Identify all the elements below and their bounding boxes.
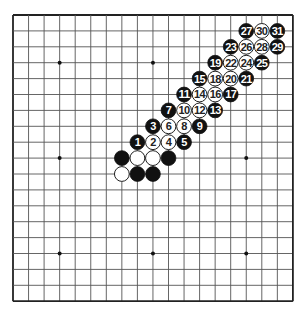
black-stone-move-11: 11 xyxy=(177,87,192,102)
black-stone-move-17: 17 xyxy=(223,87,238,102)
black-stone-move-5: 5 xyxy=(177,135,192,150)
white-stone-move-26: 26 xyxy=(239,39,254,54)
move-number-label: 2 xyxy=(150,136,156,148)
white-stone-move-16: 16 xyxy=(208,87,223,102)
move-number-label: 10 xyxy=(179,104,191,116)
move-number-label: 26 xyxy=(241,41,253,53)
move-number-label: 30 xyxy=(256,25,268,37)
black-stone-move-13: 13 xyxy=(208,103,223,118)
white-stone xyxy=(114,167,129,182)
star-point xyxy=(58,252,62,256)
move-number-label: 21 xyxy=(241,73,253,85)
star-point xyxy=(58,156,62,160)
move-number-label: 24 xyxy=(241,57,253,69)
move-number-label: 22 xyxy=(225,57,237,69)
star-point xyxy=(244,252,248,256)
stone-disc xyxy=(114,151,129,166)
go-board: 1234567891011121314151617181920212223242… xyxy=(0,0,302,314)
stone-disc xyxy=(130,151,145,166)
move-number-label: 19 xyxy=(210,57,222,69)
move-number-label: 6 xyxy=(166,120,172,132)
white-stone-move-30: 30 xyxy=(254,24,269,39)
black-stone-move-23: 23 xyxy=(223,39,238,54)
white-stone-move-2: 2 xyxy=(146,135,161,150)
black-stone-move-21: 21 xyxy=(239,71,254,86)
white-stone-move-24: 24 xyxy=(239,55,254,70)
stone-disc xyxy=(146,151,161,166)
stone-disc xyxy=(114,167,129,182)
star-point xyxy=(244,156,248,160)
move-number-label: 29 xyxy=(272,41,284,53)
go-board-diagram: 1234567891011121314151617181920212223242… xyxy=(0,0,302,314)
move-number-label: 28 xyxy=(256,41,268,53)
black-stone-move-29: 29 xyxy=(270,39,285,54)
move-number-label: 5 xyxy=(181,136,187,148)
move-number-label: 16 xyxy=(210,88,222,100)
stone-disc xyxy=(130,167,145,182)
white-stone xyxy=(130,151,145,166)
white-stone-move-10: 10 xyxy=(177,103,192,118)
move-number-label: 12 xyxy=(194,104,206,116)
move-number-label: 9 xyxy=(197,120,203,132)
black-stone-move-1: 1 xyxy=(130,135,145,150)
black-stone-move-9: 9 xyxy=(192,119,207,134)
move-number-label: 23 xyxy=(225,41,237,53)
star-point xyxy=(151,61,155,65)
white-stone-move-14: 14 xyxy=(192,87,207,102)
black-stone xyxy=(130,167,145,182)
black-stone-move-7: 7 xyxy=(161,103,176,118)
white-stone xyxy=(146,151,161,166)
white-stone-move-18: 18 xyxy=(208,71,223,86)
stone-disc xyxy=(146,167,161,182)
black-stone-move-31: 31 xyxy=(270,24,285,39)
white-stone-move-6: 6 xyxy=(161,119,176,134)
black-stone-move-15: 15 xyxy=(192,71,207,86)
move-number-label: 31 xyxy=(272,25,284,37)
white-stone-move-22: 22 xyxy=(223,55,238,70)
move-number-label: 18 xyxy=(210,73,222,85)
black-stone xyxy=(146,167,161,182)
black-stone-move-3: 3 xyxy=(146,119,161,134)
black-stone xyxy=(161,151,176,166)
move-number-label: 1 xyxy=(135,136,141,148)
move-number-label: 20 xyxy=(225,73,237,85)
move-number-label: 25 xyxy=(256,57,268,69)
white-stone-move-28: 28 xyxy=(254,39,269,54)
white-stone-move-4: 4 xyxy=(161,135,176,150)
move-number-label: 15 xyxy=(194,73,206,85)
black-stone-move-19: 19 xyxy=(208,55,223,70)
move-number-label: 14 xyxy=(194,88,206,100)
move-number-label: 17 xyxy=(225,88,237,100)
move-number-label: 13 xyxy=(210,104,222,116)
move-number-label: 7 xyxy=(166,104,172,116)
move-number-label: 8 xyxy=(181,120,187,132)
stone-disc xyxy=(161,151,176,166)
move-number-label: 27 xyxy=(241,25,253,37)
white-stone-move-20: 20 xyxy=(223,71,238,86)
black-stone-move-27: 27 xyxy=(239,24,254,39)
white-stone-move-12: 12 xyxy=(192,103,207,118)
star-point xyxy=(151,252,155,256)
move-number-label: 3 xyxy=(150,120,156,132)
star-point xyxy=(58,61,62,65)
move-number-label: 11 xyxy=(179,88,191,100)
black-stone-move-25: 25 xyxy=(254,55,269,70)
white-stone-move-8: 8 xyxy=(177,119,192,134)
black-stone xyxy=(114,151,129,166)
